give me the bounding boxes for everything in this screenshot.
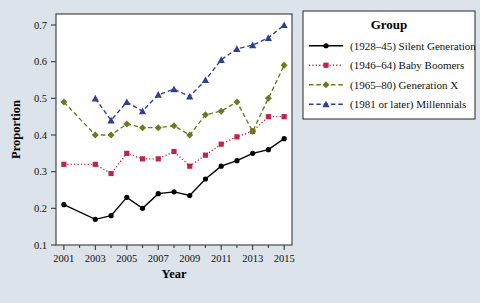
data-point-square	[266, 114, 271, 119]
data-point-square	[124, 151, 129, 156]
data-point-circle	[108, 213, 113, 218]
legend: Group(1928–45) Silent Generation(1946–64…	[303, 11, 476, 119]
data-point-square	[156, 156, 161, 161]
x-axis-tick-label: 2015	[274, 253, 295, 264]
y-axis-tick-label: 0.7	[34, 20, 47, 31]
x-axis-tick-label: 2001	[53, 253, 74, 264]
legend-entry-label: (1981 or later) Millennials	[350, 98, 466, 111]
plot-area	[56, 14, 292, 245]
data-point-square	[187, 164, 192, 169]
data-point-circle	[93, 217, 98, 222]
data-point-square	[323, 63, 328, 68]
data-point-circle	[140, 206, 145, 211]
y-axis-tick-label: 0.5	[34, 93, 47, 104]
data-point-circle	[156, 191, 161, 196]
data-point-circle	[171, 189, 176, 194]
line-chart-canvas: 0.10.20.30.40.50.60.72001200320052007200…	[0, 0, 480, 303]
data-point-circle	[61, 202, 66, 207]
x-axis-tick-label: 2005	[116, 253, 137, 264]
data-point-circle	[323, 43, 328, 48]
legend-entry-label: (1965–80) Generation X	[350, 79, 458, 92]
data-point-circle	[266, 147, 271, 152]
x-axis-tick-label: 2013	[242, 253, 263, 264]
x-axis-tick-label: 2011	[211, 253, 232, 264]
data-point-square	[108, 171, 113, 176]
x-axis-tick-label: 2007	[148, 253, 169, 264]
data-point-square	[93, 162, 98, 167]
y-axis-tick-label: 0.4	[34, 130, 48, 141]
data-point-circle	[124, 195, 129, 200]
y-axis-tick-label: 0.2	[34, 203, 47, 214]
data-point-square	[234, 134, 239, 139]
data-point-square	[282, 114, 287, 119]
data-point-circle	[187, 193, 192, 198]
y-axis-tick-label: 0.6	[34, 56, 47, 67]
legend-entry-label: (1928–45) Silent Generation	[350, 40, 476, 53]
data-point-circle	[250, 151, 255, 156]
y-axis-tick-label: 0.3	[34, 166, 47, 177]
data-point-square	[61, 162, 66, 167]
data-point-square	[171, 149, 176, 154]
y-axis-title: Proportion	[9, 100, 23, 159]
x-axis-tick-label: 2009	[179, 253, 200, 264]
data-point-circle	[234, 158, 239, 163]
x-axis-title: Year	[162, 267, 187, 281]
legend-title: Group	[371, 17, 408, 32]
data-point-square	[203, 153, 208, 158]
data-point-square	[219, 142, 224, 147]
data-point-square	[140, 156, 145, 161]
legend-entry-label: (1946–64) Baby Boomers	[350, 59, 464, 72]
data-point-circle	[203, 176, 208, 181]
chart-figure: 0.10.20.30.40.50.60.72001200320052007200…	[0, 0, 480, 303]
y-axis-tick-label: 0.1	[34, 240, 47, 251]
data-point-circle	[282, 136, 287, 141]
x-axis-tick-label: 2003	[85, 253, 106, 264]
data-point-circle	[219, 164, 224, 169]
